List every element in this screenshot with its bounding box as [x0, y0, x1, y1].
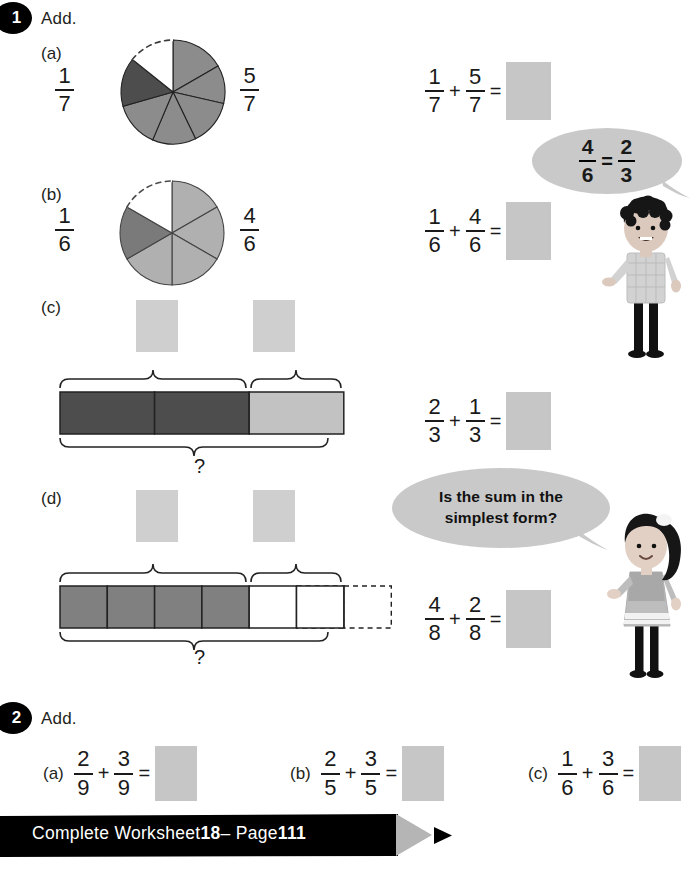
part-1d-bar-label-box-2[interactable]	[253, 490, 295, 542]
fraction-numerator: 2	[322, 748, 338, 770]
question-2-instruction: Add.	[41, 709, 77, 729]
part-2b-label: (b)	[290, 764, 311, 784]
fraction-numerator: 4	[241, 205, 257, 227]
fraction-denominator: 3	[467, 424, 483, 446]
part-1a-answer-box[interactable]	[506, 62, 551, 120]
plus-sign: +	[444, 220, 466, 243]
equation-fraction-b: 3 5	[361, 748, 380, 799]
footer-banner-text: Complete Worksheet 18 – Page 111	[32, 812, 306, 854]
plus-sign: +	[577, 762, 599, 785]
fraction-bar	[618, 160, 635, 163]
part-1d-answer-box[interactable]	[506, 590, 551, 648]
equation-fraction-a: 2 5	[321, 748, 340, 799]
fraction-numerator: 4	[426, 594, 442, 616]
plus-sign: +	[444, 410, 466, 433]
part-1c-answer-box[interactable]	[506, 392, 551, 450]
part-2c-label: (c)	[528, 764, 548, 784]
part-1c-equation: 2 3 + 1 3 =	[425, 392, 551, 450]
equals-sign: =	[380, 762, 402, 785]
part-1d-bar-label-box-1[interactable]	[136, 490, 178, 542]
equation-fraction-a: 2 9	[74, 748, 93, 799]
part-2b-answer-box[interactable]	[402, 746, 444, 801]
question-1-number: 1	[12, 8, 21, 28]
equation-fraction-b: 3 9	[114, 748, 133, 799]
part-1b-pie-model	[116, 176, 228, 290]
footer-separator: – Page	[221, 823, 278, 844]
part-1a-pie-model	[118, 36, 228, 148]
fraction-denominator: 7	[467, 94, 483, 116]
equation-fraction-b: 5 7	[466, 66, 485, 117]
fraction-denominator: 5	[363, 777, 379, 799]
equation-fraction-a: 1 6	[558, 748, 577, 799]
fraction-denominator: 7	[56, 93, 72, 115]
equation-fraction-b: 4 6	[466, 206, 485, 257]
part-1c-bar-label-box-2[interactable]	[253, 300, 295, 352]
fraction-denominator: 6	[241, 233, 257, 255]
equals-sign: =	[485, 410, 507, 433]
fraction-numerator: 4	[467, 206, 483, 228]
fraction-numerator: 1	[426, 206, 442, 228]
fraction-numerator: 1	[56, 205, 72, 227]
equals-sign: =	[485, 80, 507, 103]
fraction-denominator: 7	[241, 93, 257, 115]
fraction-numerator: 2	[75, 748, 91, 770]
equals-sign: =	[485, 220, 507, 243]
fraction-denominator: 9	[75, 777, 91, 799]
part-2c: (c) 1 6 + 3 6 =	[528, 746, 681, 801]
worksheet-footer-banner: Complete Worksheet 18 – Page 111	[0, 812, 460, 854]
part-1b-equation: 1 6 + 4 6 =	[425, 202, 551, 260]
question-2-badge: 2	[0, 702, 32, 734]
equals-sign: =	[133, 762, 155, 785]
fraction-numerator: 1	[559, 748, 575, 770]
plus-sign: +	[93, 762, 115, 785]
fraction-numerator: 1	[56, 65, 72, 87]
fraction-denominator: 9	[116, 777, 132, 799]
part-1a-left-fraction: 1 7	[55, 65, 74, 116]
fraction-denominator: 3	[426, 424, 442, 446]
fraction-denominator: 7	[426, 94, 442, 116]
equation-fraction-b: 1 3	[466, 396, 485, 447]
fraction-denominator: 6	[580, 164, 596, 185]
fraction-numerator: 2	[467, 594, 483, 616]
girl-bubble-line-2: simplest form?	[439, 508, 563, 529]
boy-bubble-equation: 4 6 = 2 3	[579, 136, 635, 185]
fraction-numerator: 3	[116, 748, 132, 770]
part-1a-label: (a)	[41, 44, 62, 64]
fraction-bar	[579, 160, 596, 163]
equation-fraction-a: 4 8	[425, 594, 444, 645]
fraction-numerator: 4	[580, 136, 596, 157]
part-1c-whole-label: ?	[194, 455, 205, 478]
part-1b-left-fraction: 1 6	[55, 205, 74, 256]
footer-worksheet-number: 18	[200, 823, 220, 844]
fraction-denominator: 6	[467, 234, 483, 256]
part-2a: (a) 2 9 + 3 9 =	[43, 746, 197, 801]
part-2c-answer-box[interactable]	[639, 746, 681, 801]
equation-fraction-b: 3 6	[599, 748, 618, 799]
equation-fraction-a: 1 7	[425, 66, 444, 117]
equals-sign: =	[618, 762, 640, 785]
part-1c-bar-label-box-1[interactable]	[136, 300, 178, 352]
girl-character	[600, 498, 698, 683]
part-2a-label: (a)	[43, 764, 64, 784]
equals-sign: =	[596, 150, 618, 173]
part-2b: (b) 2 5 + 3 5 =	[290, 746, 444, 801]
fraction-numerator: 5	[467, 66, 483, 88]
part-1a-right-fraction: 5 7	[240, 65, 259, 116]
fraction-denominator: 8	[467, 622, 483, 644]
fraction-numerator: 1	[467, 396, 483, 418]
part-1b-answer-box[interactable]	[506, 202, 551, 260]
fraction-denominator: 6	[56, 233, 72, 255]
equals-sign: =	[485, 608, 507, 631]
fraction-denominator: 5	[322, 777, 338, 799]
fraction-numerator: 5	[241, 65, 257, 87]
part-1b-label: (b)	[41, 185, 62, 205]
part-1c-label: (c)	[41, 298, 61, 318]
question-1-instruction: Add.	[41, 9, 77, 29]
part-2a-answer-box[interactable]	[155, 746, 197, 801]
equation-fraction-a: 2 3	[425, 396, 444, 447]
girl-bubble-text: Is the sum in the simplest form?	[439, 487, 563, 529]
fraction-numerator: 3	[363, 748, 379, 770]
footer-prefix: Complete Worksheet	[32, 823, 200, 844]
part-1d-label: (d)	[41, 489, 62, 509]
fraction-denominator: 6	[426, 234, 442, 256]
